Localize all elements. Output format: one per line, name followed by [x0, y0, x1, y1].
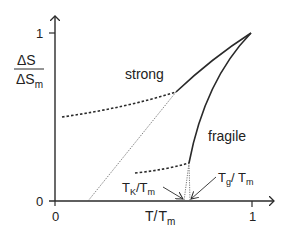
x-tick-label-1: 1: [249, 209, 256, 224]
y-axis-label: ΔS ΔSm: [14, 52, 44, 90]
tk-pointer-arrow: [163, 187, 183, 199]
tg-pointer-arrow: [191, 177, 216, 199]
y-label-denominator: ΔSm: [16, 71, 43, 90]
tg-label: Tg/ Tm: [218, 170, 253, 187]
strong-extrapolation: [88, 92, 176, 201]
strong-label: strong: [125, 66, 164, 82]
x-axis-label: T/Tm: [145, 208, 175, 227]
fragile-extrapolation-tg: [189, 163, 190, 201]
y-tick-label-0: 0: [36, 194, 43, 209]
y-label-numerator: ΔS: [17, 52, 36, 68]
strong-curve: [176, 33, 251, 92]
fragile-dashed-extension: [135, 163, 189, 173]
entropy-diagram: 1 0 0 1 ΔS ΔSm T/Tm strong fragile TK/Tm…: [0, 0, 289, 234]
x-tick-label-0: 0: [52, 209, 59, 224]
fragile-extrapolation-tk: [184, 163, 189, 201]
tk-label: TK/Tm: [122, 180, 155, 197]
y-tick-label-1: 1: [36, 26, 43, 41]
fragile-label: fragile: [208, 128, 246, 144]
